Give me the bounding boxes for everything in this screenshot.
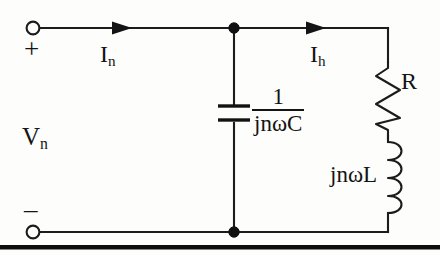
current-in-label: In: [100, 42, 116, 69]
terminal-negative-icon: [27, 226, 40, 239]
source-voltage-label: Vn: [22, 124, 48, 152]
resistor-symbol: [376, 62, 400, 140]
source-voltage-subscript: n: [40, 135, 48, 152]
capacitor-impedance-numerator: 1: [266, 85, 290, 109]
capacitor-impedance-label: 1 jnωC: [252, 85, 304, 135]
current-ih-symbol: I: [310, 41, 318, 67]
current-ih-label: Ih: [310, 42, 326, 69]
circuit-diagram: + – Vn In Ih R jnωL 1 jnωC: [0, 0, 440, 255]
arrowhead-in-icon: [112, 22, 132, 35]
polarity-negative-label: –: [24, 196, 38, 223]
terminal-positive-icon: [27, 22, 40, 35]
current-in-subscript: n: [108, 53, 116, 69]
arrowhead-ih-icon: [306, 22, 326, 35]
inductor-symbol: [388, 142, 402, 213]
page-bottom-rule: [0, 245, 440, 250]
source-voltage-symbol: V: [22, 123, 40, 150]
current-ih-subscript: h: [318, 53, 326, 69]
junction-dot-top: [229, 23, 239, 33]
capacitor-impedance-denominator: jnωC: [252, 111, 304, 135]
current-arrow-ih: [306, 22, 326, 35]
resistor-label: R: [401, 69, 417, 93]
inductor-label: jnωL: [330, 163, 377, 186]
junction-dot-bottom: [229, 227, 239, 237]
current-in-symbol: I: [100, 41, 108, 67]
current-arrow-in: [112, 22, 132, 35]
polarity-positive-label: +: [24, 36, 39, 63]
capacitor-symbol: [218, 106, 250, 120]
circuit-schematic-canvas: [0, 0, 440, 255]
